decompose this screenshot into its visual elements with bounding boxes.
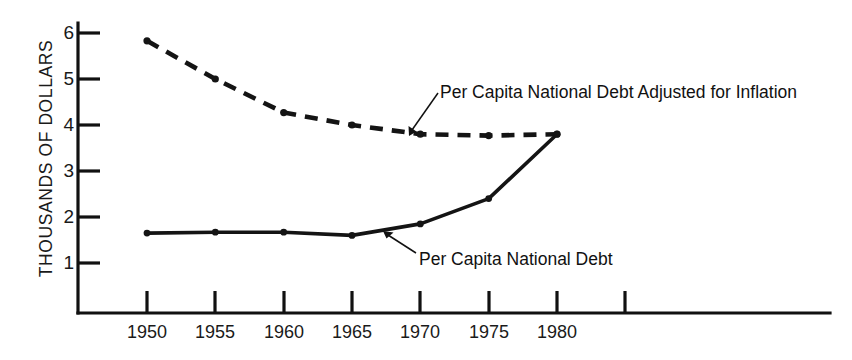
- leader-debt: [383, 231, 416, 253]
- data-point: [417, 221, 424, 228]
- data-point: [485, 132, 492, 139]
- data-point: [212, 229, 219, 236]
- series-markers-adjusted-for-inflation: [143, 37, 560, 139]
- plot-area: [0, 0, 852, 360]
- data-point: [143, 37, 150, 44]
- chart-figure: THOUSANDS OF DOLLARS 6 5 4 3 2 1 1950 19…: [0, 0, 852, 360]
- series-line-per-capita-debt: [147, 134, 557, 235]
- data-point: [212, 75, 219, 82]
- data-point: [280, 109, 287, 116]
- data-point: [349, 232, 356, 239]
- leader-adjusted: [409, 93, 439, 136]
- series-markers-per-capita-debt: [144, 131, 561, 239]
- data-point: [554, 131, 561, 138]
- data-point: [144, 230, 151, 237]
- series-line-adjusted-for-inflation: [147, 41, 557, 136]
- data-point: [417, 131, 424, 138]
- data-point: [485, 195, 492, 202]
- data-point: [348, 121, 355, 128]
- data-point: [280, 229, 287, 236]
